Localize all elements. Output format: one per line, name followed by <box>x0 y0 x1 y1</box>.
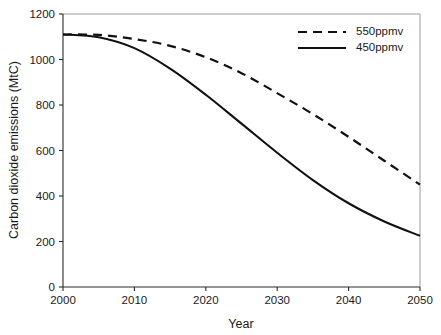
x-axis-title: Year <box>228 317 253 331</box>
y-tick-label: 0 <box>49 281 55 293</box>
legend-label-550ppmv: 550ppmv <box>356 25 404 37</box>
series-line-450ppmv <box>63 34 420 235</box>
y-tick-label: 200 <box>36 236 55 248</box>
series-line-550ppmv <box>63 34 420 184</box>
x-tick-label: 2050 <box>407 294 433 306</box>
x-tick-label: 2030 <box>264 294 290 306</box>
y-axis-title: Carbon dioxide emissions (MtC) <box>7 61 21 239</box>
legend-label-450ppmv: 450ppmv <box>356 41 404 53</box>
x-tick-label: 2010 <box>122 294 148 306</box>
y-tick-label: 400 <box>36 190 55 202</box>
chart-canvas: 020040060080010001200 200020102020203020… <box>0 0 441 335</box>
y-axis-ticks: 020040060080010001200 <box>29 8 63 293</box>
y-tick-label: 1000 <box>29 54 55 66</box>
y-tick-label: 1200 <box>29 8 55 20</box>
y-tick-label: 600 <box>36 145 55 157</box>
plot-frame <box>63 14 420 287</box>
x-axis-ticks: 200020102020203020402050 <box>50 287 433 306</box>
y-tick-label: 800 <box>36 99 55 111</box>
chart-series-layer <box>63 34 420 235</box>
chart-legend: 550ppmv450ppmv <box>298 25 404 53</box>
chart-figure: 020040060080010001200 200020102020203020… <box>0 0 441 335</box>
x-tick-label: 2040 <box>336 294 362 306</box>
x-tick-label: 2020 <box>193 294 219 306</box>
x-tick-label: 2000 <box>50 294 76 306</box>
